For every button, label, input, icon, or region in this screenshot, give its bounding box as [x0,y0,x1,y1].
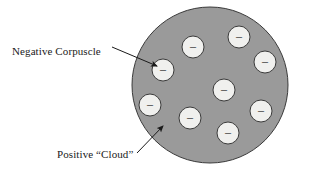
negative-corpuscle: – [139,94,161,116]
minus-sign-icon: – [261,54,269,68]
minus-sign-icon: – [235,29,243,43]
plum-pudding-diagram: ––––––––– Negative Corpuscle Positive “C… [0,0,316,180]
minus-sign-icon: – [257,103,265,117]
minus-sign-icon: – [146,97,154,111]
positive-cloud-label: Positive “Cloud” [57,148,133,160]
negative-corpuscle: – [217,122,239,144]
negative-corpuscle: – [213,79,235,101]
minus-sign-icon: – [224,125,232,139]
negative-corpuscle: – [228,26,250,48]
minus-sign-icon: – [220,82,228,96]
minus-sign-icon: – [189,39,197,53]
negative-corpuscle-label: Negative Corpuscle [12,45,101,57]
minus-sign-icon: – [159,62,167,76]
negative-corpuscle: – [179,107,201,129]
minus-sign-icon: – [186,110,194,124]
diagram-canvas: ––––––––– [0,0,316,180]
negative-corpuscle: – [250,100,272,122]
negative-corpuscle: – [182,36,204,58]
negative-corpuscle: – [254,51,276,73]
negative-corpuscle: – [152,59,174,81]
positive-cloud-circle [132,7,288,163]
